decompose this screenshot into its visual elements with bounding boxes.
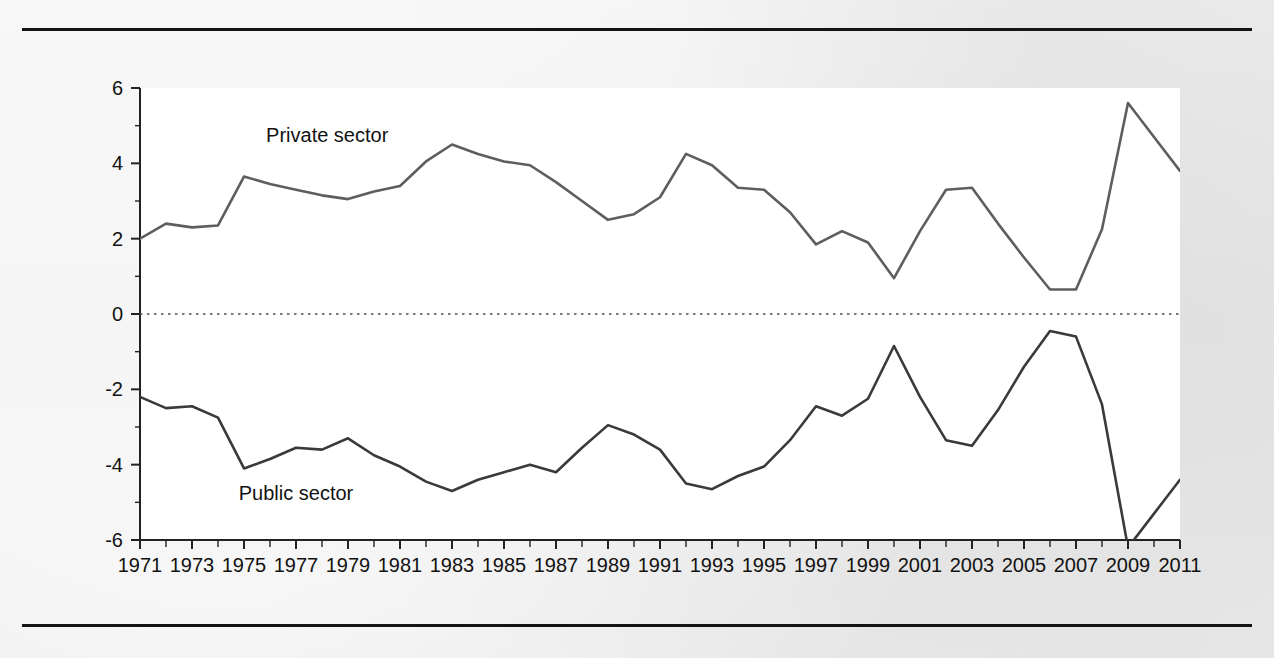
x-tick-label-1977: 1977: [274, 554, 319, 576]
x-tick-label-1979: 1979: [326, 554, 371, 576]
y-axis-ticks: [131, 88, 140, 540]
figure-root: -6-4-20246 19711973197519771979198119831…: [0, 0, 1274, 658]
y-axis-tick-labels: -6-4-20246: [105, 77, 123, 551]
figure-bottom-rule: [22, 624, 1252, 627]
x-tick-label-1981: 1981: [378, 554, 423, 576]
y-tick-label-4: 4: [112, 152, 123, 174]
x-tick-label-1993: 1993: [690, 554, 735, 576]
x-tick-label-1991: 1991: [638, 554, 683, 576]
line-chart: -6-4-20246 19711973197519771979198119831…: [0, 0, 1274, 658]
series-label-private-sector: Private sector: [266, 124, 389, 146]
x-tick-label-1999: 1999: [846, 554, 891, 576]
y-tick-label-6: 6: [112, 77, 123, 99]
x-tick-label-2001: 2001: [898, 554, 943, 576]
y-tick-label--2: -2: [105, 378, 123, 400]
x-tick-label-2007: 2007: [1054, 554, 1099, 576]
x-tick-label-1975: 1975: [222, 554, 267, 576]
x-tick-label-1995: 1995: [742, 554, 787, 576]
x-tick-label-1983: 1983: [430, 554, 475, 576]
x-tick-label-1971: 1971: [118, 554, 163, 576]
x-tick-label-2009: 2009: [1106, 554, 1151, 576]
x-tick-label-1985: 1985: [482, 554, 527, 576]
y-tick-label-2: 2: [112, 228, 123, 250]
y-tick-label--4: -4: [105, 454, 123, 476]
x-tick-label-1997: 1997: [794, 554, 839, 576]
x-tick-label-1973: 1973: [170, 554, 215, 576]
x-tick-label-2003: 2003: [950, 554, 995, 576]
x-tick-label-1989: 1989: [586, 554, 631, 576]
series-label-public-sector: Public sector: [239, 482, 354, 504]
x-axis-tick-labels: 1971197319751977197919811983198519871989…: [118, 554, 1202, 576]
x-axis-ticks: [140, 540, 1180, 549]
x-tick-label-2011: 2011: [1158, 554, 1201, 576]
x-tick-label-1987: 1987: [534, 554, 579, 576]
y-tick-label-0: 0: [112, 303, 123, 325]
x-tick-label-2005: 2005: [1002, 554, 1047, 576]
y-tick-label--6: -6: [105, 529, 123, 551]
